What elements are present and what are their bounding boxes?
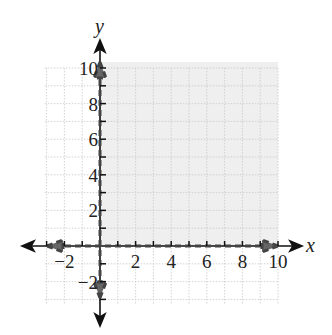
x-axis-label: x xyxy=(305,234,315,256)
svg-text:4: 4 xyxy=(166,251,176,272)
svg-text:8: 8 xyxy=(238,251,248,272)
svg-text:8: 8 xyxy=(89,94,99,115)
coordinate-plane: −2246810−2246810 x y xyxy=(0,0,332,335)
svg-text:10: 10 xyxy=(269,251,288,272)
svg-text:6: 6 xyxy=(202,251,212,272)
svg-text:2: 2 xyxy=(131,251,141,272)
svg-text:−2: −2 xyxy=(78,272,98,293)
svg-text:6: 6 xyxy=(89,129,99,150)
y-axis-label: y xyxy=(93,15,104,38)
svg-text:4: 4 xyxy=(89,165,99,186)
svg-text:2: 2 xyxy=(89,200,99,221)
svg-text:10: 10 xyxy=(79,58,98,79)
svg-text:−2: −2 xyxy=(54,251,74,272)
